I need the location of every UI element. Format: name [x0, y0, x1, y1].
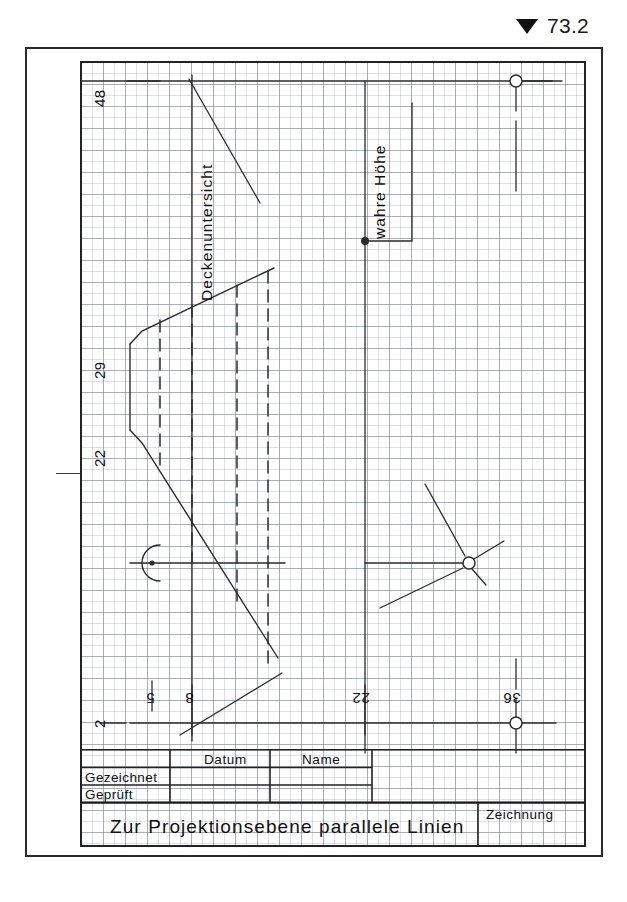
title-block-sheet-label: Zeichnung	[486, 808, 554, 822]
hidden-edge-dashed-group	[160, 271, 268, 663]
node-centre-line-downright	[472, 569, 486, 585]
title-block-drawing-title: Zur Projektionsebene parallele Linien	[110, 817, 464, 836]
title-block-header-name: Name	[302, 753, 340, 767]
node-circle-topright	[510, 75, 522, 87]
leader-point-wahre-hoehe	[361, 237, 369, 245]
left-margin-tick-mark	[56, 473, 82, 474]
top-marker-bar: 73.2	[0, 0, 627, 44]
node-centre-line-upright	[474, 541, 504, 559]
title-block-header-datum: Datum	[204, 753, 247, 767]
axis-label-48: 48	[92, 89, 107, 107]
title-block-row-label-geprueft: Geprüft	[85, 788, 133, 802]
marker-value-label: 73.2	[547, 14, 589, 38]
axis-label-36: 36	[503, 691, 521, 706]
node-centre-line-upleft	[425, 484, 465, 556]
drawing-sheet-outer-frame: Deckenuntersicht wahre Höhe 48 29 22 2 5…	[25, 47, 603, 857]
drawing-area-inner-frame: Deckenuntersicht wahre Höhe 48 29 22 2 5…	[80, 61, 586, 847]
axis-label-22-left: 22	[92, 449, 107, 467]
page-position-marker: 73.2	[516, 14, 589, 38]
axis-label-29: 29	[92, 361, 107, 379]
node-circle-centre	[463, 557, 475, 569]
annotation-deckenuntersicht: Deckenuntersicht	[199, 164, 215, 301]
axis-label-22-bottom: 22	[352, 691, 370, 706]
title-block: Datum Name Gezeichnet Geprüft Zur Projek…	[80, 749, 586, 847]
axis-label-5: 5	[146, 691, 155, 706]
angle-vertex-dot	[149, 560, 154, 565]
axis-label-2: 2	[92, 719, 107, 728]
triangle-down-icon	[516, 19, 538, 34]
technical-drawing-geometry	[82, 63, 586, 847]
annotation-wahre-hoehe: wahre Höhe	[372, 144, 388, 239]
bottom-left-oblique	[180, 673, 282, 735]
trapezoid-edge-bottom	[130, 430, 278, 658]
node-centre-line-downleft	[380, 568, 463, 608]
axis-label-8: 8	[185, 691, 194, 706]
screenshot-page: 73.2	[0, 0, 627, 902]
title-block-row-label-gezeichnet: Gezeichnet	[85, 771, 157, 785]
node-circle-bottomright	[510, 717, 522, 729]
